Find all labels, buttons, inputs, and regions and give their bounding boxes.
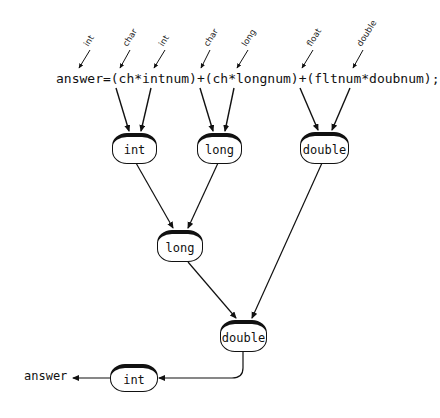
- node-mul-fltnum-doubnum: double: [300, 132, 349, 164]
- node-add-second: double: [220, 320, 267, 352]
- operand-edges: [116, 88, 350, 131]
- promotion-edges: [73, 163, 322, 378]
- node-add-first: long: [157, 230, 203, 262]
- node-mul-ch-intnum: int: [112, 133, 157, 164]
- result-variable-label: answer: [24, 369, 67, 383]
- node-mul-ch-longnum: long: [197, 133, 242, 164]
- node-assign: int: [110, 364, 158, 392]
- assignment-expression: answer=(ch*intnum)+(ch*longnum)+(fltnum*…: [56, 71, 440, 86]
- type-pointer-arrows: [79, 50, 363, 68]
